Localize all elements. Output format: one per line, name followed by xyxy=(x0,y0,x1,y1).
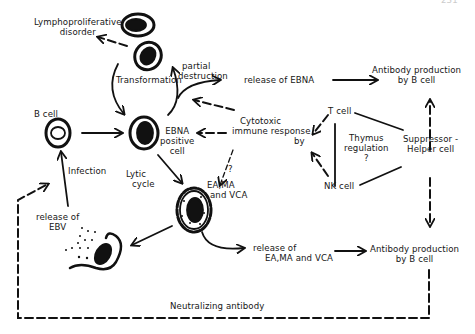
label-partial-destruction: partial destruction xyxy=(178,61,228,81)
label-cytotoxic-immune-response: Cytotoxic immune response by xyxy=(232,116,311,146)
arrow-cytotoxic-to-partial xyxy=(194,100,234,110)
arrow-disorder-from-transformed xyxy=(98,37,127,46)
label-neutralizing-antibody: Neutralizing antibody xyxy=(170,301,264,311)
label-antibody-production-bottom: Antibody production by B cell xyxy=(370,244,459,264)
lysed-cell-icon xyxy=(65,227,121,269)
lytic-cell-icon xyxy=(177,188,211,232)
arrow-lytic-to-release-ea xyxy=(202,232,244,249)
label-antibody-production-top: Antibody production by B cell xyxy=(372,65,461,85)
arrow-infection-up xyxy=(61,152,68,206)
label-release-ebv: release of EBV xyxy=(36,212,79,232)
label-thymus-regulation: Thymus regulation ? xyxy=(344,133,389,163)
label-nk-cell: NK cell xyxy=(324,181,354,191)
label-lytic-cycle: Lytic cycle xyxy=(126,169,155,189)
arrow-lytic-to-lysed xyxy=(132,226,172,245)
label-t-cell: T cell xyxy=(328,106,351,116)
arrow-nk-to-cytotoxic xyxy=(312,153,328,176)
arrow-ebna-to-lytic xyxy=(158,155,182,183)
transformed-cell-icon xyxy=(130,37,167,74)
label-suppressor-helper-cell: Suppressor - Helper cell xyxy=(403,134,458,154)
line-nk-suppressor xyxy=(360,167,401,185)
arrow-transformation-down xyxy=(112,64,124,114)
b-cell-icon xyxy=(46,119,70,147)
arrow-partial-destruction-right xyxy=(178,80,220,98)
label-ebna-positive-cell: EBNA positive cell xyxy=(160,126,195,156)
label-question-mark: ? xyxy=(228,164,233,174)
ebna-positive-cell-icon xyxy=(130,117,158,149)
label-b-cell: B cell xyxy=(34,109,58,119)
label-ea-ma-vca: EA,MA and VCA xyxy=(207,180,247,200)
arrow-tcell-to-cytotoxic xyxy=(313,115,328,134)
label-lymphoproliferative-disorder: Lymphoproliferative disorder xyxy=(34,17,122,37)
transformed-cell-top-icon xyxy=(122,14,154,36)
label-release-ebna: release of EBNA xyxy=(244,75,314,85)
page-number: 231 xyxy=(441,0,458,5)
label-transformation: Transformation xyxy=(116,75,182,85)
label-release-ea-ma-vca: release of EA,MA and VCA xyxy=(253,243,333,263)
label-infection: Infection xyxy=(68,166,106,176)
line-tcell-suppressor xyxy=(355,113,403,130)
neutralizing-antibody-loop xyxy=(18,184,429,318)
